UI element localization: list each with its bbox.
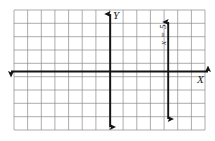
coordinate-plane-figure: Y X x = 5 [0, 0, 215, 141]
x-axis-label: X [197, 74, 204, 85]
line-equation-label: x = 5 [159, 18, 168, 52]
graph-canvas [0, 0, 215, 141]
y-axis-label: Y [113, 10, 119, 21]
